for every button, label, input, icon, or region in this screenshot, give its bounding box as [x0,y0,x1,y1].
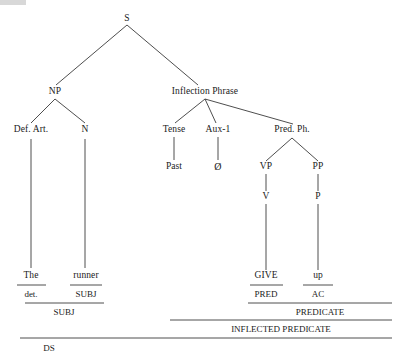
edge-predph-vp [266,138,292,161]
node-np: NP [49,87,61,97]
edge-np-defart [31,99,55,123]
label-subj-n: SUBJ [75,290,96,299]
edge-ip-tense [175,99,205,123]
node-s: S [124,14,129,24]
label-ac: AC [312,290,325,299]
label-subj-phrase: SUBJ [53,308,74,317]
node-pred-ph: Pred. Ph. [274,125,309,135]
tree-diagram-canvas: S NP Inflection Phrase Def. Art. N Tense… [0,0,399,357]
node-def-art: Def. Art. [14,125,48,135]
node-vp: VP [260,162,272,172]
node-pp: PP [313,162,324,172]
node-v: V [263,192,270,202]
edge-np-n [55,99,85,123]
label-inflected-predicate: INFLECTED PREDICATE [231,325,331,334]
node-past: Past [166,162,182,172]
edge-ip-aux [205,99,216,123]
terminal-up: up [313,271,323,281]
node-aux-1: Aux-1 [206,125,231,135]
edge-ip-predph [205,99,293,124]
node-p: P [315,192,320,202]
terminal-the: The [23,271,38,281]
terminal-give: GIVE [254,271,277,281]
edge-s-np [56,25,127,85]
terminal-runner: runner [73,271,98,281]
node-n: N [82,125,89,135]
node-null-aux: Ø [214,162,221,172]
edge-predph-pp [292,138,318,161]
label-predicate: PREDICATE [296,308,345,317]
label-pred: PRED [254,290,277,299]
tree-edges-svg [0,0,399,357]
node-tense: Tense [163,125,186,135]
edge-s-ip [127,25,198,85]
node-inflection-phrase: Inflection Phrase [172,87,238,97]
label-det: det. [24,290,37,299]
label-ds: DS [43,344,55,353]
